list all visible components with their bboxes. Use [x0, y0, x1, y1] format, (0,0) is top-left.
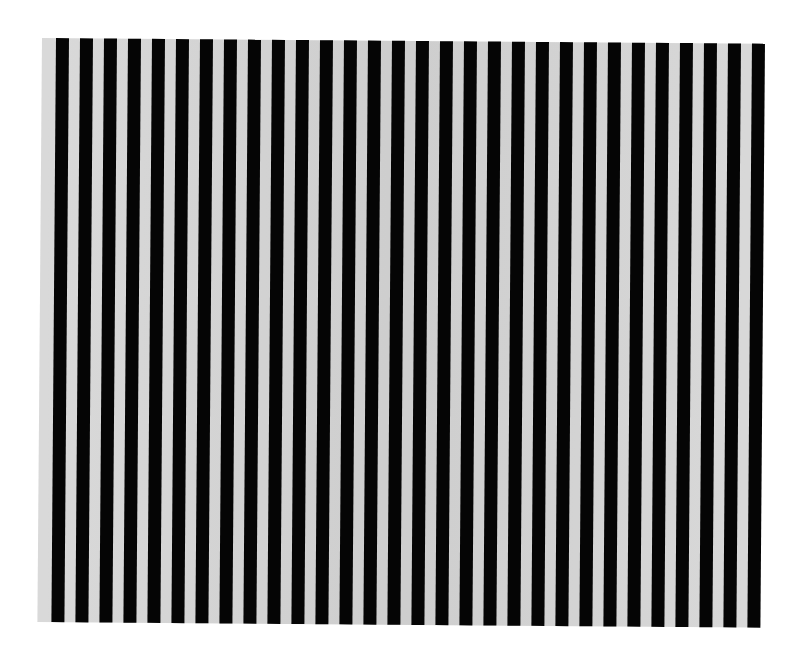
dark-stripe: [291, 40, 309, 624]
dark-stripe: [219, 39, 237, 623]
dark-stripe: [531, 42, 549, 626]
dark-stripe: [723, 43, 741, 627]
dark-stripe: [99, 38, 117, 622]
dark-stripe: [507, 42, 525, 626]
dark-stripe: [339, 40, 357, 624]
dark-stripe: [75, 38, 93, 622]
dark-stripe: [363, 41, 381, 625]
dark-stripe: [579, 42, 597, 626]
dark-stripe: [699, 43, 717, 627]
dark-stripe: [555, 42, 573, 626]
dark-stripe: [747, 44, 765, 628]
dark-stripe: [459, 41, 477, 625]
dark-stripe: [243, 40, 261, 624]
dark-stripe: [147, 39, 165, 623]
dark-stripe: [267, 40, 285, 624]
dark-stripe: [675, 43, 693, 627]
dark-stripe: [123, 39, 141, 623]
dark-stripe: [195, 39, 213, 623]
dark-stripe: [483, 42, 501, 626]
dark-stripe: [411, 41, 429, 625]
dark-stripe: [387, 41, 405, 625]
dark-stripe: [603, 42, 621, 626]
dark-stripe: [51, 38, 69, 622]
dark-stripe: [171, 39, 189, 623]
dark-stripe: [315, 40, 333, 624]
dark-stripe: [435, 41, 453, 625]
dark-stripe: [651, 43, 669, 627]
stripe-pattern: [37, 38, 760, 628]
dark-stripe: [627, 43, 645, 627]
